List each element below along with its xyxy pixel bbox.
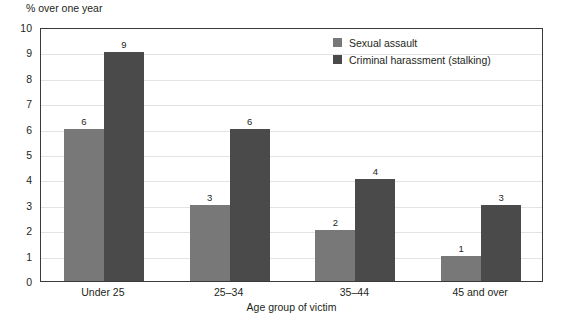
x-axis-tick-labels: Under 2525–3435–4445 and over [40,286,543,302]
y-axis-tick-label: 4 [26,175,32,186]
legend-item-label: Sexual assault [349,37,417,49]
y-axis-unit-label: % over one year [26,2,102,15]
x-axis-tick-label: 45 and over [452,286,507,299]
bar: 2 [315,230,355,281]
bar: 3 [190,205,230,281]
bar-value-label: 6 [247,116,252,127]
legend-item: Sexual assault [333,35,491,50]
chart-legend: Sexual assaultCriminal harassment (stalk… [333,35,491,69]
y-axis-tick-label: 5 [26,150,32,161]
legend-item-label: Criminal harassment (stalking) [349,54,491,66]
bar-value-label: 6 [81,116,86,127]
y-axis-tick-label: 6 [26,124,32,135]
y-axis-tick-label: 8 [26,73,32,84]
bar-value-label: 2 [333,217,338,228]
legend-item: Criminal harassment (stalking) [333,52,491,67]
legend-swatch-icon [333,55,342,64]
y-axis-tick-label: 10 [20,23,32,34]
bar: 9 [104,52,144,281]
bar-value-label: 3 [207,192,212,203]
plot-area: 69362413 Sexual assaultCriminal harassme… [40,28,543,282]
bar-value-label: 3 [498,192,503,203]
bar: 6 [230,129,270,281]
bar-value-label: 1 [458,243,463,254]
bar-chart: % over one year 109876543210 69362413 Se… [0,0,568,316]
bar-value-label: 9 [121,39,126,50]
y-axis-tick-label: 3 [26,200,32,211]
x-axis-tick-label: 25–34 [214,286,243,299]
y-axis-tick-label: 0 [26,277,32,288]
bar-value-label: 4 [373,166,378,177]
y-axis-tick-label: 1 [26,251,32,262]
y-axis-tick-labels: 109876543210 [0,28,36,282]
bar: 3 [481,205,521,281]
x-axis-tick-label: Under 25 [81,286,124,299]
bar: 1 [441,256,481,281]
x-axis-title: Age group of victim [40,301,543,314]
x-axis-tick-label: 35–44 [340,286,369,299]
y-axis-tick-label: 7 [26,99,32,110]
y-axis-tick-label: 9 [26,48,32,59]
bar: 4 [355,179,395,281]
bar: 6 [64,129,104,281]
y-axis-tick-label: 2 [26,226,32,237]
legend-swatch-icon [333,38,342,47]
